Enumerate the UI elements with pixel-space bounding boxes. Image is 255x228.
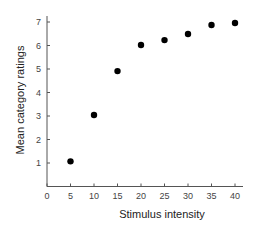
data-point [185, 31, 191, 37]
x-tick-label: 25 [159, 191, 169, 201]
x-tick-label: 35 [206, 191, 216, 201]
data-point [91, 112, 97, 118]
y-tick-label: 7 [36, 17, 41, 27]
data-point [208, 22, 214, 28]
y-tick-label: 5 [36, 64, 41, 74]
data-point [161, 37, 167, 43]
x-tick-label: 0 [44, 191, 49, 201]
y-axis-ticks: 1234567 [36, 17, 50, 168]
y-tick-label: 1 [36, 158, 41, 168]
data-point [138, 42, 144, 48]
x-tick-label: 10 [89, 191, 99, 201]
y-tick-label: 3 [36, 111, 41, 121]
y-tick-label: 6 [36, 41, 41, 51]
x-tick-label: 40 [230, 191, 240, 201]
data-point [67, 158, 73, 164]
data-points [67, 20, 238, 165]
x-axis-label: Stimulus intensity [119, 208, 205, 220]
x-tick-label: 30 [183, 191, 193, 201]
data-point [232, 20, 238, 26]
x-tick-label: 15 [112, 191, 122, 201]
scatter-chart: 1234567 0510152025303540 Mean category r… [0, 0, 255, 228]
y-axis-label: Mean category ratings [14, 45, 26, 154]
y-tick-label: 2 [36, 135, 41, 145]
y-tick-label: 4 [36, 88, 41, 98]
x-tick-label: 20 [136, 191, 146, 201]
data-point [114, 68, 120, 74]
axes [47, 16, 243, 187]
x-tick-label: 5 [68, 191, 73, 201]
